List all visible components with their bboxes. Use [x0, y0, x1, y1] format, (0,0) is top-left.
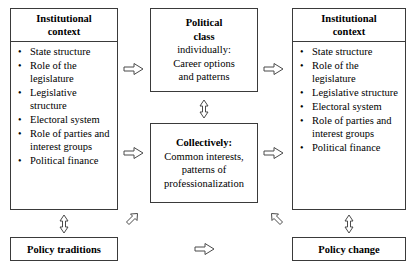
list-item: •Role of the legislature — [17, 59, 114, 85]
right-arrow-icon — [124, 64, 143, 75]
list-item-label: Role of parties and interest groups — [312, 115, 392, 139]
list-item: •Role of parties and interest groups — [299, 114, 402, 140]
bullet-icon: • — [300, 45, 304, 58]
collective-line1: Collectively: — [176, 136, 232, 150]
list-item: •Political finance — [299, 141, 402, 154]
list-item-label: Role of the legislature — [30, 60, 77, 84]
bullet-icon: • — [18, 45, 22, 58]
political-class-line2: class — [194, 30, 215, 44]
arrow-traditions-to-change — [194, 242, 216, 256]
policy-traditions-label: Policy traditions — [27, 243, 101, 256]
list-item: •State structure — [299, 45, 402, 58]
bullet-icon: • — [18, 86, 22, 99]
collective-line2: Common interests, — [164, 150, 243, 164]
box-policy-traditions: Policy traditions — [10, 237, 118, 261]
bullet-icon: • — [18, 59, 22, 72]
list-item-label: State structure — [312, 46, 372, 57]
up-down-arrow-icon — [60, 215, 68, 233]
left-context-header: Institutional context — [11, 9, 117, 42]
list-item: •State structure — [17, 45, 114, 58]
box-policy-change: Policy change — [292, 237, 406, 261]
diagram-canvas: Institutional context •State structure •… — [0, 0, 411, 269]
list-item: •Legislative structure — [299, 86, 402, 99]
list-item: •Role of the legislature — [299, 59, 402, 85]
bullet-icon: • — [300, 100, 304, 113]
right-context-list: •State structure •Role of the legislatur… — [293, 42, 405, 158]
arrow-individual-collective-link — [198, 99, 210, 119]
left-context-list: •State structure •Role of the legislatur… — [11, 42, 117, 171]
list-item: •Role of parties and interest groups — [17, 127, 114, 153]
political-class-line1: Political — [186, 16, 223, 30]
diagonal-up-right-arrow-icon — [127, 214, 138, 225]
political-class-line5: and patterns — [178, 70, 229, 84]
arrow-right-context-to-change — [343, 214, 355, 234]
right-context-header-line2: context — [295, 25, 403, 38]
list-item-label: Role of parties and interest groups — [30, 128, 110, 152]
bullet-icon: • — [300, 86, 304, 99]
list-item-label: Role of the legislature — [312, 60, 359, 84]
collective-line3: patterns of — [182, 163, 227, 177]
right-arrow-icon — [124, 148, 143, 159]
bullet-icon: • — [300, 114, 304, 127]
list-item-label: Political finance — [312, 142, 381, 153]
bullet-icon: • — [18, 154, 22, 167]
box-left-institutional-context: Institutional context •State structure •… — [10, 8, 118, 210]
bullet-icon: • — [300, 59, 304, 72]
right-context-header-line1: Institutional — [295, 12, 403, 25]
list-item-label: State structure — [30, 46, 90, 57]
left-context-header-line1: Institutional — [13, 12, 115, 25]
list-item-label: Legislative structure — [30, 87, 77, 111]
right-arrow-icon — [264, 64, 283, 75]
list-item: •Legislative structure — [17, 86, 114, 112]
arrow-left-to-collective — [123, 146, 145, 160]
up-down-arrow-icon — [345, 215, 353, 233]
list-item-label: Electoral system — [30, 114, 100, 125]
list-item-label: Political finance — [30, 155, 99, 166]
diagonal-up-left-arrow-icon — [272, 214, 283, 225]
up-down-arrow-icon — [200, 100, 208, 118]
collective-line4: professionalization — [164, 177, 244, 191]
right-context-header: Institutional context — [293, 9, 405, 42]
bullet-icon: • — [18, 113, 22, 126]
arrow-collective-to-right — [263, 146, 285, 160]
arrow-left-to-individual — [123, 62, 145, 76]
list-item: •Political finance — [17, 154, 114, 167]
box-political-class-individual: Political class individually: Career opt… — [150, 8, 258, 92]
political-class-line3: individually: — [177, 43, 231, 57]
policy-change-label: Policy change — [318, 243, 380, 256]
political-class-line4: Career options — [173, 57, 235, 71]
arrow-individual-to-right — [263, 62, 285, 76]
list-item-label: Legislative structure — [312, 87, 398, 98]
list-item-label: Electoral system — [312, 101, 382, 112]
arrow-traditions-to-collective — [124, 211, 140, 227]
right-arrow-icon — [195, 244, 214, 255]
list-item: •Electoral system — [299, 100, 402, 113]
arrow-left-context-to-traditions — [58, 214, 70, 234]
list-item: •Electoral system — [17, 113, 114, 126]
bullet-icon: • — [300, 141, 304, 154]
left-context-header-line2: context — [13, 25, 115, 38]
bullet-icon: • — [18, 127, 22, 140]
arrow-collective-to-change — [269, 211, 285, 227]
box-right-institutional-context: Institutional context •State structure •… — [292, 8, 406, 210]
right-arrow-icon — [264, 148, 283, 159]
box-political-class-collective: Collectively: Common interests, patterns… — [150, 123, 258, 203]
